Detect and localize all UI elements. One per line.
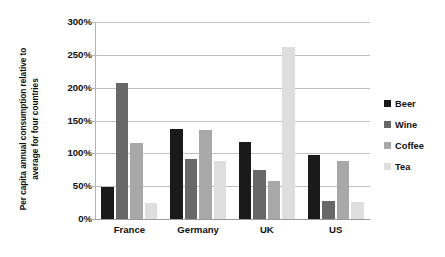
legend-item-beer[interactable]: Beer	[384, 95, 444, 112]
bar-us-tea[interactable]	[351, 202, 364, 219]
y-axis-tick-mark	[91, 88, 95, 89]
y-axis-tick-label: 150%	[56, 116, 92, 126]
bar-uk-coffee[interactable]	[268, 181, 281, 219]
legend-item-coffee[interactable]: Coffee	[384, 137, 444, 154]
y-axis-tick-mark	[91, 186, 95, 187]
y-axis-tick-mark	[91, 153, 95, 154]
y-axis-tick-label: 100%	[56, 148, 92, 158]
y-axis-tick-label: 50%	[56, 181, 92, 191]
y-axis-tick-label: 300%	[56, 17, 92, 27]
bar-uk-tea[interactable]	[282, 47, 295, 219]
bar-uk-beer[interactable]	[239, 142, 252, 219]
y-axis-tick-mark	[91, 219, 95, 220]
legend-swatch-wine-icon	[384, 121, 391, 128]
x-axis-label-germany: Germany	[164, 224, 233, 236]
legend-item-tea[interactable]: Tea	[384, 158, 444, 175]
y-axis-title-line-1: Per capita annual consumption relative t…	[18, 47, 30, 210]
bar-germany-beer[interactable]	[170, 129, 183, 219]
bar-group-france	[95, 22, 164, 219]
bar-us-coffee[interactable]	[337, 161, 350, 219]
legend-label-beer: Beer	[395, 99, 416, 109]
y-axis-title: Per capita annual consumption relative t…	[0, 0, 58, 257]
x-axis-label-uk: UK	[233, 224, 302, 236]
legend-label-wine: Wine	[395, 120, 417, 130]
bar-france-wine[interactable]	[116, 83, 129, 219]
bar-group-uk	[233, 22, 302, 219]
gridline-0%	[95, 219, 370, 220]
bar-group-germany	[164, 22, 233, 219]
bar-chart: Per capita annual consumption relative t…	[0, 0, 445, 257]
y-axis-title-line-2: average for four countries	[29, 47, 41, 210]
x-axis-tick-labels: FranceGermanyUKUS	[95, 224, 370, 244]
chart-legend: BeerWineCoffeeTea	[384, 95, 444, 179]
y-axis-tick-labels: 0%50%100%150%200%250%300%	[52, 0, 92, 257]
y-axis-tick-mark	[91, 121, 95, 122]
legend-swatch-coffee-icon	[384, 142, 391, 149]
y-axis-tick-label: 200%	[56, 83, 92, 93]
legend-label-coffee: Coffee	[395, 141, 424, 151]
y-axis-tick-label: 0%	[56, 214, 92, 224]
bar-us-wine[interactable]	[322, 201, 335, 219]
bar-uk-wine[interactable]	[253, 170, 266, 219]
legend-swatch-tea-icon	[384, 163, 391, 170]
x-axis-label-france: France	[95, 224, 164, 236]
legend-item-wine[interactable]: Wine	[384, 116, 444, 133]
bar-france-tea[interactable]	[145, 203, 158, 219]
bar-france-beer[interactable]	[101, 187, 114, 219]
bar-france-coffee[interactable]	[130, 143, 143, 219]
x-axis-label-us: US	[301, 224, 370, 236]
plot-area	[95, 22, 370, 219]
bar-us-beer[interactable]	[308, 155, 321, 219]
y-axis-tick-mark	[91, 55, 95, 56]
bar-group-us	[301, 22, 370, 219]
y-axis-tick-mark	[91, 22, 95, 23]
legend-label-tea: Tea	[395, 162, 410, 172]
bar-germany-wine[interactable]	[185, 159, 198, 219]
bar-germany-coffee[interactable]	[199, 130, 212, 219]
legend-swatch-beer-icon	[384, 100, 391, 107]
y-axis-tick-label: 250%	[56, 50, 92, 60]
bar-germany-tea[interactable]	[214, 161, 227, 219]
